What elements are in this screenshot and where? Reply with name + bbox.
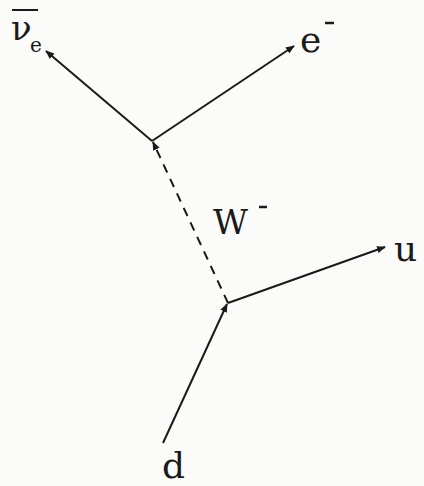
antineutrino-symbol: ν (11, 8, 32, 48)
down-quark-line (163, 304, 227, 443)
antineutrino-subscript: e (30, 33, 42, 57)
w-boson-label: W (213, 202, 267, 242)
up-quark-line (228, 247, 385, 303)
feynman-diagram: ν e e W u d (0, 0, 424, 486)
down-quark-label: d (162, 445, 185, 486)
electron-line (152, 46, 294, 141)
antineutrino-line (46, 51, 152, 141)
w-boson-symbol: W (213, 202, 248, 242)
electron-symbol: e (300, 19, 321, 60)
antineutrino-label: ν e (11, 8, 42, 57)
up-quark-label: u (394, 228, 417, 269)
electron-label: e (300, 19, 334, 60)
